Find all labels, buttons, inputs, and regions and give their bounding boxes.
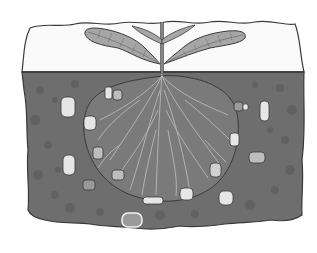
microbe — [234, 102, 243, 111]
illustration-canvas — [0, 0, 317, 253]
microbe — [61, 97, 75, 117]
microbe — [219, 191, 233, 205]
microbe — [122, 213, 142, 227]
microbe — [105, 87, 112, 99]
microbe — [260, 101, 269, 121]
microbe — [63, 155, 75, 175]
microbe — [84, 116, 96, 130]
microbe — [93, 147, 103, 159]
microbe — [210, 163, 221, 177]
rhizosphere-illustration — [0, 0, 317, 253]
microbe — [249, 152, 265, 163]
microbe — [143, 197, 163, 204]
microbe — [180, 188, 193, 200]
microbe — [243, 104, 248, 110]
microbe — [230, 133, 239, 146]
microbe — [113, 90, 122, 100]
microbe — [83, 180, 95, 190]
microbe — [112, 170, 124, 180]
